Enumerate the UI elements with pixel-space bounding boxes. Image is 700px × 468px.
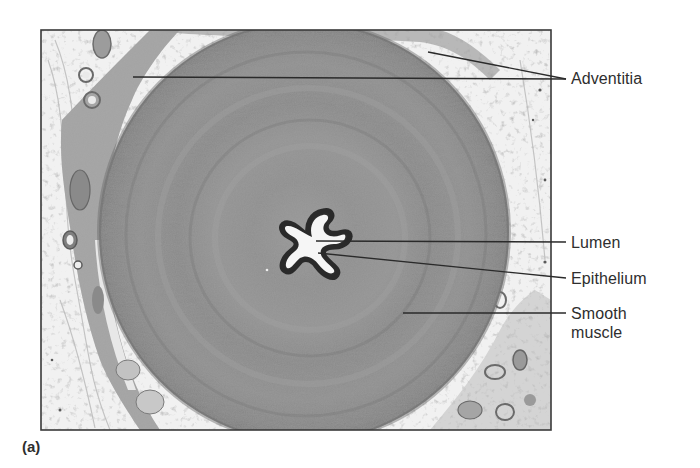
label-smooth-muscle-line1: Smooth (571, 305, 627, 322)
label-lumen: Lumen (571, 233, 620, 252)
histology-figure: Adventitia Lumen Epithelium Smooth muscl… (0, 0, 700, 468)
label-adventitia: Adventitia (571, 69, 642, 88)
label-epithelium: Epithelium (571, 269, 647, 288)
panel-label: (a) (22, 438, 40, 455)
label-smooth-muscle: Smooth muscle (571, 304, 627, 342)
leader-line-lumen (316, 241, 566, 242)
label-smooth-muscle-line2: muscle (571, 323, 627, 342)
